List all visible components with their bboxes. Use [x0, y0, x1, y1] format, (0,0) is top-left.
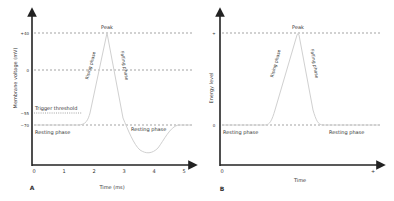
xtick-0: 0 — [32, 168, 35, 174]
y-axis-label-b: Energy level — [208, 73, 215, 104]
xtick-2: 2 — [92, 168, 95, 174]
panel-b: + 0 0 + Energy level Time B Peak Rising … — [208, 12, 381, 192]
ytick-plus: + — [212, 31, 215, 36]
panel-a: +40 0 −55 −70 0 1 2 3 4 5 Membrane volta… — [12, 12, 193, 191]
rising-phase-label-b: Rising phase — [269, 49, 281, 78]
y-axis-label: Membrane voltage (mV) — [12, 48, 19, 109]
xtick-0-b: 0 — [220, 168, 223, 174]
ytick-minus70: −70 — [21, 123, 30, 128]
rising-phase-label: Rising phase — [84, 51, 96, 80]
xtick-3: 3 — [122, 168, 125, 174]
x-axis-label: Time (ms) — [98, 184, 124, 190]
panel-letter-b: B — [220, 185, 225, 192]
resting-phase-right-label-b: Resting phase — [329, 129, 364, 136]
resting-phase-left-label: Resting phase — [35, 129, 70, 136]
falling-phase-label-b: Falling phase — [309, 49, 319, 79]
x-axis-label-b: Time — [293, 177, 306, 183]
trigger-threshold-label: Trigger threshold — [34, 105, 77, 112]
xtick-1: 1 — [62, 168, 65, 174]
ytick-zero: 0 — [26, 68, 29, 73]
peak-label: Peak — [101, 24, 113, 30]
energy-pulse-curve — [222, 34, 380, 126]
peak-label-b: Peak — [292, 24, 304, 30]
ytick-minus55: −55 — [21, 111, 30, 116]
xtick-4: 4 — [152, 168, 155, 174]
falling-phase-label: Falling phase — [119, 51, 129, 81]
xtick-plus-b: + — [371, 168, 375, 174]
resting-phase-left-label-b: Resting phase — [223, 129, 258, 136]
resting-phase-right-label: Resting phase — [131, 126, 166, 133]
panel-letter-a: A — [30, 184, 35, 191]
figure: +40 0 −55 −70 0 1 2 3 4 5 Membrane volta… — [0, 0, 394, 201]
ytick-plus40: +40 — [21, 31, 30, 36]
xtick-5: 5 — [182, 168, 185, 174]
ytick-zero-b: 0 — [213, 123, 216, 128]
